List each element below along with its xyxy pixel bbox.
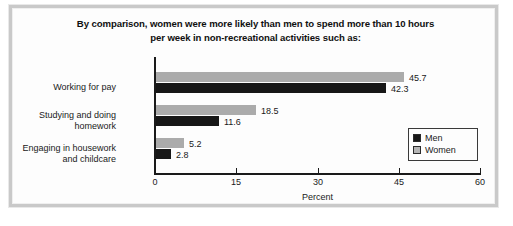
x-tick-mark-15 (236, 168, 237, 173)
x-tick-label-30: 30 (313, 177, 323, 187)
bar-men-working-for-pay (156, 83, 386, 93)
legend-item-women: Women (413, 144, 473, 156)
x-tick-label-60: 60 (475, 177, 485, 187)
legend-label-men: Men (425, 133, 443, 143)
x-tick-mark-60 (480, 168, 481, 173)
bar-value-women-working-for-pay: 45.7 (409, 73, 427, 83)
bar-men-housework-and-childcare (156, 149, 171, 159)
bar-value-women-studying-and-homework: 18.5 (261, 106, 279, 116)
x-tick-mark-0 (155, 168, 156, 173)
category-label-housework-and-childcare: Engaging in housework and childcare (22, 143, 116, 165)
figure-frame: By comparison, women were more likely th… (9, 5, 498, 207)
plot-area: 0 15 30 45 60 Percent Working for pay St… (12, 8, 495, 204)
x-axis-line (154, 173, 481, 175)
x-tick-mark-30 (318, 168, 319, 173)
legend-swatch-women-icon (413, 146, 421, 154)
legend-swatch-men-icon (413, 134, 421, 142)
bar-men-studying-and-homework (156, 116, 219, 126)
x-tick-mark-45 (399, 168, 400, 173)
x-tick-label-0: 0 (152, 177, 157, 187)
bar-value-men-housework-and-childcare: 2.8 (176, 150, 189, 160)
bar-women-studying-and-homework (156, 105, 256, 115)
category-label-studying-and-homework: Studying and doing homework (39, 110, 116, 132)
bar-women-housework-and-childcare (156, 138, 184, 148)
x-tick-label-15: 15 (231, 177, 241, 187)
legend-label-women: Women (425, 145, 456, 155)
category-label-working-for-pay: Working for pay (53, 82, 116, 93)
chart-legend: Men Women (408, 128, 478, 161)
x-tick-label-45: 45 (394, 177, 404, 187)
bar-value-men-working-for-pay: 42.3 (391, 84, 409, 94)
bar-value-women-housework-and-childcare: 5.2 (189, 139, 202, 149)
bar-women-working-for-pay (156, 72, 404, 82)
bar-value-men-studying-and-homework: 11.6 (224, 117, 241, 127)
legend-item-men: Men (413, 132, 473, 144)
x-axis-title: Percent (154, 192, 481, 202)
